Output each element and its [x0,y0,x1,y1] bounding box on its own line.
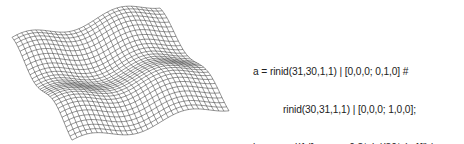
wireframe-surface-plot [0,0,240,144]
code-line-2: rinid(30,31,1,1) | [0,0,0; 1,0,0]; [253,104,444,117]
mesh-line-u [36,30,97,133]
mesh-line-u [131,6,198,109]
mesh-line-v [16,12,165,43]
mesh-line-u [127,6,194,109]
mesh-line-v [70,105,227,136]
mesh-line-u [160,8,229,111]
code-line-3: b = mapel(1,'[:x,y,z:z=0.8*sin|(30*x)+1]… [253,142,444,144]
mesh-line-v [14,9,162,40]
mesh-line-u [146,8,214,111]
code-line-1: a = rinid(31,30,1,1) | [0,0,0; 0,1,0] # [253,66,444,79]
mesh-line-u [93,21,158,124]
surface-mesh [12,6,229,140]
code-listing: a = rinid(31,30,1,1) | [0,0,0; 0,1,0] # … [253,41,444,144]
mesh-line-v [26,34,176,65]
